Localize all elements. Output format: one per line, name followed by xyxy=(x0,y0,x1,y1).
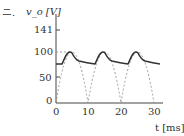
chart-figure: ニ. v_o [V] 141 100 50 0 0 10 20 30 t [ms… xyxy=(0,0,184,136)
plot-area xyxy=(0,0,184,136)
rectified-sine-dashed xyxy=(56,52,154,103)
